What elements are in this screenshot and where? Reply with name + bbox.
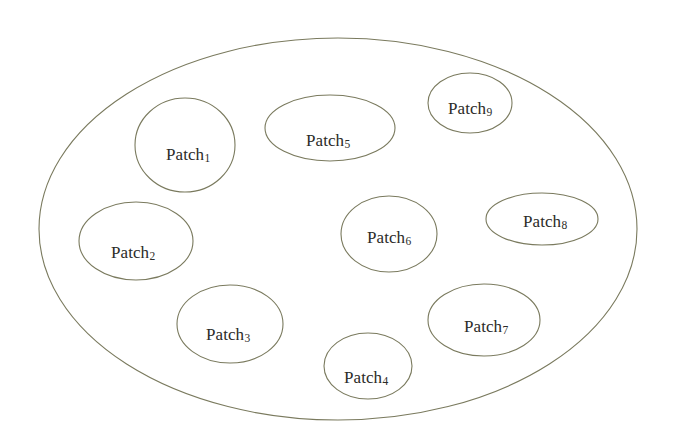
- patch-6-label-subscript: 6: [405, 235, 411, 247]
- patch-4-label-text: Patch: [344, 368, 382, 387]
- patch-2-label-subscript: 2: [149, 250, 155, 262]
- patch-1-label: Patch1: [166, 146, 210, 163]
- patch-5-label-text: Patch: [306, 131, 344, 150]
- patch-2-label: Patch2: [111, 244, 155, 261]
- patch-4-label-subscript: 4: [382, 375, 388, 387]
- diagram-canvas: Patch1Patch2Patch3Patch4Patch5Patch6Patc…: [0, 0, 678, 445]
- patch-9-label-text: Patch: [448, 99, 486, 118]
- patch-9-label: Patch9: [448, 100, 492, 117]
- patch-6-label: Patch6: [367, 229, 411, 246]
- patch-8-label-subscript: 8: [561, 219, 567, 231]
- patch-2-ellipse: [79, 202, 193, 280]
- patch-1-label-subscript: 1: [204, 152, 210, 164]
- patch-5-label-subscript: 5: [344, 138, 350, 150]
- patch-7-label-text: Patch: [464, 317, 502, 336]
- patch-6-label-text: Patch: [367, 228, 405, 247]
- patch-4-ellipse: [324, 333, 412, 399]
- patch-4-label: Patch4: [344, 369, 388, 386]
- patch-8-label: Patch8: [523, 213, 567, 230]
- patch-7-label-subscript: 7: [502, 324, 508, 336]
- diagram-svg: [0, 0, 678, 445]
- patch-3-label-subscript: 3: [244, 332, 250, 344]
- patch-1-label-text: Patch: [166, 145, 204, 164]
- patch-8-label-text: Patch: [523, 212, 561, 231]
- patch-9-label-subscript: 9: [486, 106, 492, 118]
- patch-2-label-text: Patch: [111, 243, 149, 262]
- patch-3-label: Patch3: [206, 326, 250, 343]
- patch-3-label-text: Patch: [206, 325, 244, 344]
- patch-7-label: Patch7: [464, 318, 508, 335]
- patch-5-ellipse: [265, 95, 395, 161]
- patch-5-label: Patch5: [306, 132, 350, 149]
